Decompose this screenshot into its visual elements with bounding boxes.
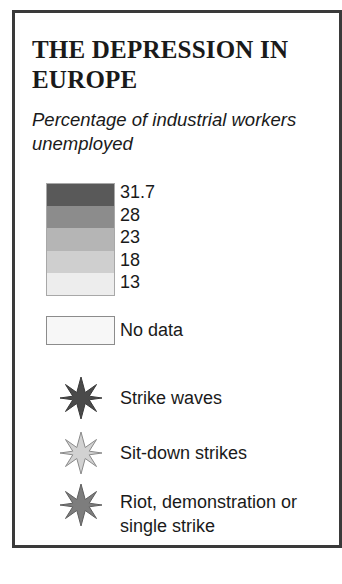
legend-label-sit-down-strikes: Sit-down strikes: [120, 441, 330, 465]
map-legend-panel: THE DEPRESSION IN EUROPE Percentage of i…: [12, 10, 342, 548]
page-title: THE DEPRESSION IN EUROPE: [32, 35, 332, 95]
gradient-label-1: 28: [120, 204, 240, 227]
no-data-label: No data: [120, 316, 183, 345]
star-icon-strike-waves: [58, 375, 104, 421]
swatch-band-13: [47, 273, 114, 295]
legend-row-strike-waves: Strike waves: [46, 375, 336, 421]
swatch-band-23: [47, 228, 114, 250]
star-icon-riot-demonstration: [58, 482, 104, 528]
swatch-band-31-7: [47, 184, 114, 206]
legend-row-riot-demonstration: Riot, demonstration or single strike: [46, 482, 336, 542]
legend-subtitle: Percentage of industrial workers unemplo…: [32, 108, 297, 156]
legend-row-no-data: No data: [46, 316, 326, 346]
legend-content: THE DEPRESSION IN EUROPE Percentage of i…: [15, 13, 339, 545]
gradient-label-3: 18: [120, 249, 240, 272]
gradient-label-0: 31.7: [120, 181, 240, 204]
legend-row-sit-down-strikes: Sit-down strikes: [46, 430, 336, 476]
swatch-band-18: [47, 251, 114, 273]
gradient-label-4: 13: [120, 271, 240, 294]
gradient-label-list: 31.7 28 23 18 13: [120, 181, 240, 294]
legend-label-riot-demonstration: Riot, demonstration or single strike: [120, 490, 330, 538]
star-icon-sit-down-strikes: [58, 430, 104, 476]
gradient-swatch-stack: [46, 183, 115, 296]
gradient-label-2: 23: [120, 226, 240, 249]
swatch-band-28: [47, 206, 114, 228]
no-data-swatch: [46, 316, 115, 345]
legend-label-strike-waves: Strike waves: [120, 386, 330, 410]
